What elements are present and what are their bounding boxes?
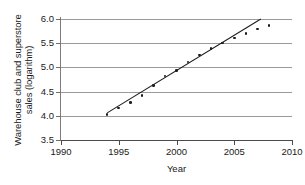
data-point <box>175 69 178 72</box>
trend-line <box>61 19 292 140</box>
y-tick-label: 5.5 <box>28 37 54 48</box>
data-point <box>141 94 144 97</box>
y-tick-label: 4.0 <box>28 110 54 121</box>
y-tick <box>56 19 61 20</box>
x-tick <box>177 141 178 145</box>
y-tick-label: 3.5 <box>28 134 54 145</box>
x-axis-title: Year <box>61 163 292 174</box>
x-tick-label: 2010 <box>272 146 305 157</box>
x-tick-label: 2005 <box>214 146 254 157</box>
y-tick <box>56 67 61 68</box>
data-point <box>233 37 236 40</box>
y-tick <box>56 116 61 117</box>
y-tick <box>56 43 61 44</box>
y-axis-title: Warehouse club and superstore sales (log… <box>12 10 34 150</box>
y-tick-label: 6.0 <box>28 13 54 24</box>
data-point <box>129 101 132 104</box>
x-tick-label: 2000 <box>157 146 197 157</box>
y-axis-title-line-1: Warehouse club and superstore <box>12 10 23 150</box>
data-point <box>245 32 248 35</box>
y-tick <box>56 92 61 93</box>
data-point <box>198 54 201 57</box>
data-point <box>268 24 271 27</box>
x-tick <box>292 141 293 145</box>
data-point <box>152 84 155 87</box>
x-tick-label: 1990 <box>41 146 81 157</box>
y-tick-label: 4.5 <box>28 86 54 97</box>
y-axis-title-line-2: sales (logarithm) <box>23 10 34 150</box>
chart-figure: Warehouse club and superstore sales (log… <box>0 0 305 185</box>
x-tick <box>119 141 120 145</box>
y-tick-label: 5.0 <box>28 61 54 72</box>
x-tick-label: 1995 <box>99 146 139 157</box>
x-tick <box>234 141 235 145</box>
x-tick <box>61 141 62 145</box>
